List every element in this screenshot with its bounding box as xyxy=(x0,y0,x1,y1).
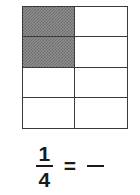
left-fraction-denominator: 4 xyxy=(38,169,51,189)
answer-fraction[interactable] xyxy=(87,143,104,189)
grid-cell-r3c1 xyxy=(23,68,75,98)
grid-cells xyxy=(22,6,128,129)
grid-cell-r1c2 xyxy=(75,7,127,37)
grid-cell-r3c2 xyxy=(75,68,127,98)
left-fraction-numerator: 1 xyxy=(38,143,51,163)
fraction-figure: 1 4 = xyxy=(0,0,140,195)
grid-cell-r2c2 xyxy=(75,37,127,67)
answer-fraction-bar xyxy=(87,165,104,167)
answer-fraction-numerator[interactable] xyxy=(89,143,102,163)
left-fraction-bar xyxy=(36,165,53,167)
grid-cell-r4c2 xyxy=(75,98,127,128)
grid-cell-r2c1 xyxy=(23,37,75,67)
fraction-equation: 1 4 = xyxy=(0,140,140,192)
answer-fraction-denominator[interactable] xyxy=(89,169,102,189)
grid-cell-r4c1 xyxy=(23,98,75,128)
grid-cell-r1c1 xyxy=(23,7,75,37)
equals-sign: = xyxy=(64,155,76,178)
fraction-model-grid xyxy=(22,6,128,129)
left-fraction: 1 4 xyxy=(36,143,53,189)
